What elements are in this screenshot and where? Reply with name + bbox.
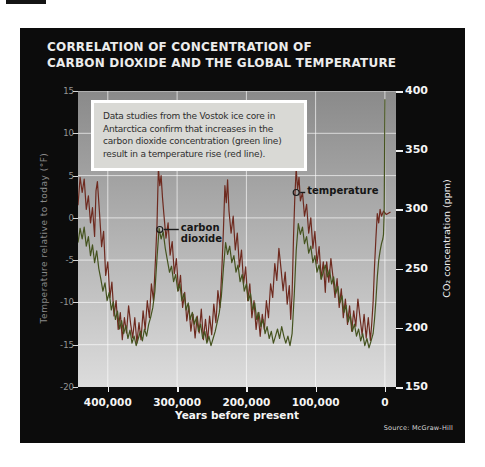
x-tick-label: 100,000 xyxy=(286,396,346,408)
left-tick-mark xyxy=(73,302,78,303)
chart-title: CORRELATION OF CONCENTRATION OF CARBON D… xyxy=(47,39,396,71)
page: { "page": { "background": "#ffffff", "co… xyxy=(0,0,485,467)
x-axis-title: Years before present xyxy=(137,409,337,421)
left-tick-mark xyxy=(73,218,78,219)
right-tick-mark xyxy=(396,91,403,93)
callout-line: Data studies from the Vostok ice core in xyxy=(103,110,295,123)
x-tick-label: 0 xyxy=(355,396,415,408)
callout-box: Data studies from the Vostok ice core in… xyxy=(91,100,307,171)
left-tick-label: -15 xyxy=(44,340,74,350)
chart-panel: CORRELATION OF CONCENTRATION OF CARBON D… xyxy=(20,28,465,443)
left-tick-label: -10 xyxy=(44,297,74,307)
left-tick-mark xyxy=(73,91,78,92)
left-tick-mark xyxy=(73,260,78,261)
x-tick-mark xyxy=(246,387,248,392)
left-tick-mark xyxy=(73,176,78,177)
left-tick-mark xyxy=(73,345,78,346)
left-tick-label: -5 xyxy=(44,255,74,265)
carbon-dioxide-annotation-label: carbon dioxide xyxy=(181,222,222,244)
x-tick-mark xyxy=(385,387,387,392)
right-tick-mark xyxy=(396,150,403,152)
callout-line: carbon dioxide concentration (green line… xyxy=(103,135,295,148)
x-tick-mark xyxy=(177,387,179,392)
right-tick-mark xyxy=(396,209,403,211)
left-axis-title: Temperature relative to today (°F) xyxy=(39,98,49,378)
x-tick-mark xyxy=(316,387,318,392)
right-axis-title: CO₂ concentration (ppm) xyxy=(441,99,452,379)
temperature-marker xyxy=(293,190,299,196)
temperature-annotation-label: temperature xyxy=(307,185,378,196)
x-tick-label: 200,000 xyxy=(216,396,276,408)
right-tick-mark xyxy=(396,328,403,330)
right-tick-mark xyxy=(396,387,403,389)
left-tick-label: 15 xyxy=(44,86,74,96)
right-tick-label: 350 xyxy=(405,144,439,156)
plot-area: Data studies from the Vostok ice core in… xyxy=(78,91,396,387)
chart-title-line2: CARBON DIOXIDE AND THE GLOBAL TEMPERATUR… xyxy=(47,55,396,71)
page-corner-tab xyxy=(6,0,46,4)
left-tick-mark xyxy=(73,133,78,134)
right-tick-label: 400 xyxy=(405,85,439,97)
chart-title-line1: CORRELATION OF CONCENTRATION OF xyxy=(47,39,396,55)
left-tick-label: 10 xyxy=(44,128,74,138)
right-tick-mark xyxy=(396,269,403,271)
left-tick-mark xyxy=(73,387,78,388)
left-tick-label: -20 xyxy=(44,382,74,392)
callout-line: Antarctica confirm that increases in the xyxy=(103,123,295,136)
right-tick-label: 300 xyxy=(405,203,439,215)
callout-line: result in a temperature rise (red line). xyxy=(103,148,295,161)
x-tick-label: 400,000 xyxy=(78,396,138,408)
left-tick-label: 0 xyxy=(44,213,74,223)
right-tick-label: 150 xyxy=(405,381,439,393)
source-credit: Source: McGraw-Hill xyxy=(384,424,453,432)
left-tick-label: 5 xyxy=(44,171,74,181)
right-tick-label: 200 xyxy=(405,322,439,334)
x-tick-label: 300,000 xyxy=(147,396,207,408)
x-tick-mark xyxy=(108,387,110,392)
right-tick-label: 250 xyxy=(405,263,439,275)
